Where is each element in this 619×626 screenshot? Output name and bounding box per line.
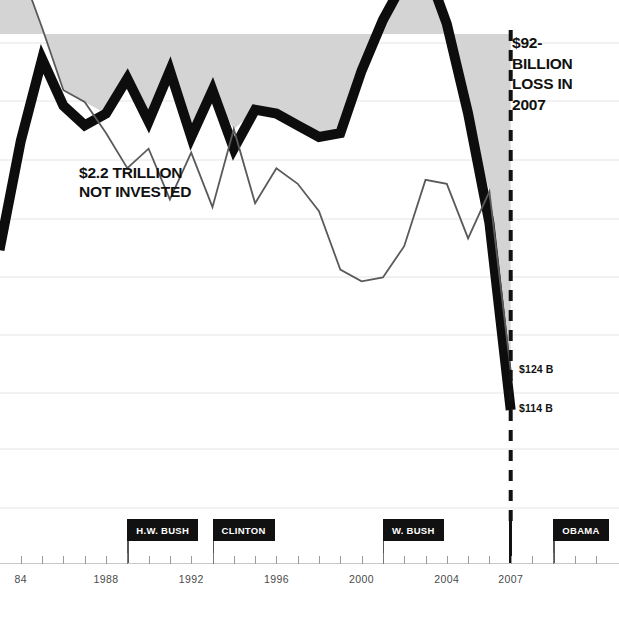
gap-fill [0,0,511,371]
x-tick-1992 [191,556,192,564]
chart-canvas: $2.2 TRILLION NOT INVESTED $92- BILLION … [0,0,619,626]
x-year-label-2007: 2007 [498,573,523,585]
x-tick-1990 [149,556,150,564]
x-tick-2008 [532,556,533,564]
end-label-thick-line: $114 B [519,402,553,414]
x-tick-1989 [127,553,128,564]
x-tick-1984 [21,556,22,564]
x-tick-1987 [85,556,86,564]
x-year-label-2000: 2000 [349,573,374,585]
x-tick-1985 [42,556,43,564]
x-tick-1986 [63,556,64,564]
x-tick-2011 [596,556,597,564]
x-year-label-1988: 1988 [94,573,119,585]
x-year-label-1984: 84 [15,573,27,585]
x-tick-2010 [575,556,576,564]
gap-shaded-region [0,0,511,371]
loss-callout-text: $92- BILLION LOSS IN 2007 [512,33,573,115]
x-year-label-2004: 2004 [434,573,459,585]
x-tick-1994 [234,556,235,564]
x-axis-line [0,563,619,564]
president-marker-obama[interactable]: OBAMA [553,519,608,541]
x-tick-1991 [170,556,171,564]
president-marker-clinton[interactable]: CLINTON [213,519,275,541]
x-year-label-1996: 1996 [264,573,289,585]
x-tick-2006 [489,556,490,564]
x-tick-2007 [511,556,512,564]
gap-callout-text: $2.2 TRILLION NOT INVESTED [79,163,191,201]
x-tick-2001 [383,553,384,564]
x-tick-1993 [213,553,214,564]
president-marker-w-bush[interactable]: W. BUSH [383,519,444,541]
x-tick-2005 [468,556,469,564]
x-tick-2003 [426,556,427,564]
x-tick-1999 [340,556,341,564]
x-tick-2004 [447,556,448,564]
x-tick-1996 [276,556,277,564]
x-tick-2002 [404,556,405,564]
end-label-thin-line: $124 B [519,363,553,375]
x-year-label-1992: 1992 [179,573,204,585]
x-tick-1998 [319,556,320,564]
x-tick-2009 [553,553,554,564]
president-marker-h-w-bush[interactable]: H.W. BUSH [127,519,198,541]
x-tick-2000 [362,556,363,564]
x-tick-1988 [106,556,107,564]
x-tick-1997 [298,556,299,564]
x-tick-1995 [255,556,256,564]
